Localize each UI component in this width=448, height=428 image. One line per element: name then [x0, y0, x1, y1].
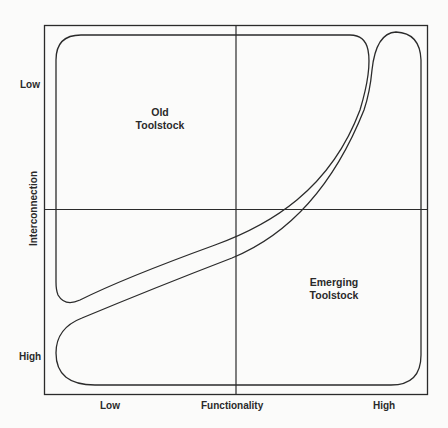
emerging-toolstock-label-line1: Emerging: [294, 276, 374, 289]
quadrant-diagram: [0, 0, 448, 428]
old-toolstock-label-line1: Old: [122, 106, 198, 119]
old-toolstock-label: Old Toolstock: [122, 106, 198, 132]
old-toolstock-label-line2: Toolstock: [122, 119, 198, 132]
x-axis-high-label: High: [373, 400, 395, 411]
y-axis-title: Interconnection: [28, 169, 39, 249]
emerging-toolstock-label: Emerging Toolstock: [294, 276, 374, 302]
old-toolstock-region: [56, 35, 369, 303]
x-axis-low-label: Low: [100, 400, 120, 411]
x-axis-title: Functionality: [201, 400, 263, 411]
y-axis-high-label: High: [19, 351, 41, 362]
emerging-toolstock-label-line2: Toolstock: [294, 289, 374, 302]
y-axis-low-label: Low: [20, 79, 40, 90]
